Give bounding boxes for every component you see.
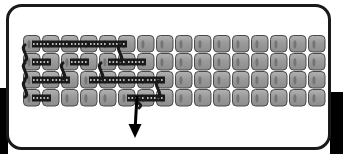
cell-pore xyxy=(122,94,125,102)
diagram-svg xyxy=(0,0,343,154)
cell-pore xyxy=(255,76,258,84)
cell-pore xyxy=(236,40,239,48)
cell-pore xyxy=(198,40,201,48)
cell-body xyxy=(271,54,288,71)
cell-pore xyxy=(255,40,258,48)
cell-pore xyxy=(293,76,296,84)
grid-cell xyxy=(214,90,231,107)
cell-pore xyxy=(84,76,87,84)
cell-body xyxy=(214,54,231,71)
cell-pore xyxy=(236,58,239,66)
grid-cell xyxy=(195,36,212,53)
cell-pore xyxy=(103,94,106,102)
cell-body xyxy=(271,90,288,107)
cell-body xyxy=(271,36,288,53)
cell-pore xyxy=(27,40,30,48)
cell-pore xyxy=(217,76,220,84)
grid-cell xyxy=(290,72,307,89)
grid-cell xyxy=(309,54,326,71)
cell-pore xyxy=(312,40,315,48)
cell-body xyxy=(309,36,326,53)
grid-cell xyxy=(233,90,250,107)
grid-cell xyxy=(290,54,307,71)
grid-cell xyxy=(309,36,326,53)
cell-pore xyxy=(312,94,315,102)
cell-body xyxy=(157,54,174,71)
cell-body xyxy=(195,72,212,89)
cell-pore xyxy=(179,94,182,102)
right-black-block xyxy=(330,92,343,154)
grid-cell xyxy=(81,90,98,107)
cell-pore xyxy=(179,40,182,48)
cell-pore xyxy=(293,58,296,66)
cell-body xyxy=(214,90,231,107)
cell-body xyxy=(252,54,269,71)
cell-body xyxy=(214,72,231,89)
grid-cell xyxy=(271,54,288,71)
grid-cell xyxy=(176,90,193,107)
cell-body xyxy=(195,54,212,71)
cell-body xyxy=(176,54,193,71)
cell-body xyxy=(309,72,326,89)
cell-body xyxy=(195,36,212,53)
cell-body xyxy=(309,90,326,107)
grid-cell xyxy=(195,90,212,107)
cell-body xyxy=(62,90,79,107)
cell-pore xyxy=(255,58,258,66)
cell-pore xyxy=(198,76,201,84)
cell-body xyxy=(290,54,307,71)
cell-body xyxy=(81,90,98,107)
cell-body xyxy=(290,36,307,53)
grid-cell xyxy=(157,54,174,71)
grid-cell xyxy=(309,72,326,89)
grid-cell xyxy=(176,54,193,71)
cell-pore xyxy=(65,58,68,66)
cell-body xyxy=(233,54,250,71)
grid-cell xyxy=(195,54,212,71)
grid-cell xyxy=(100,90,117,107)
cell-pore xyxy=(160,40,163,48)
grid-cell xyxy=(214,72,231,89)
cell-body xyxy=(252,90,269,107)
cell-pore xyxy=(236,76,239,84)
cell-pore xyxy=(274,76,277,84)
cell-pore xyxy=(198,94,201,102)
cell-body xyxy=(271,72,288,89)
cell-pore xyxy=(217,40,220,48)
cell-pore xyxy=(274,94,277,102)
cell-body xyxy=(214,36,231,53)
grid-cell xyxy=(252,72,269,89)
grid-cell xyxy=(233,72,250,89)
cell-body xyxy=(252,36,269,53)
cell-pore xyxy=(274,58,277,66)
cell-body xyxy=(252,72,269,89)
cell-body xyxy=(195,90,212,107)
grid-cell xyxy=(138,36,155,53)
cell-pore xyxy=(179,76,182,84)
cell-body xyxy=(290,90,307,107)
grid-cell xyxy=(290,90,307,107)
cell-body xyxy=(233,36,250,53)
grid-cell xyxy=(233,54,250,71)
grid-cell xyxy=(252,90,269,107)
grid-cell xyxy=(233,36,250,53)
cell-pore xyxy=(198,58,201,66)
grid-cell xyxy=(290,36,307,53)
cell-pore xyxy=(103,58,106,66)
grid-cell xyxy=(157,36,174,53)
cell-body xyxy=(100,90,117,107)
cell-body xyxy=(290,72,307,89)
grid-cell xyxy=(252,54,269,71)
grid-cell xyxy=(214,36,231,53)
cell-body xyxy=(138,36,155,53)
cell-body xyxy=(309,54,326,71)
cell-pore xyxy=(312,58,315,66)
cell-body xyxy=(157,36,174,53)
cell-body xyxy=(233,90,250,107)
cell-pore xyxy=(65,94,68,102)
cell-body xyxy=(176,72,193,89)
cell-pore xyxy=(179,58,182,66)
cell-body xyxy=(233,72,250,89)
grid-cell xyxy=(214,54,231,71)
cell-pore xyxy=(141,40,144,48)
